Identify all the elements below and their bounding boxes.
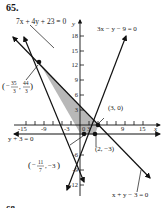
origin-label: 0: [82, 125, 85, 132]
label-7x-4y-23: 7x + 4y + 23 = 0: [16, 17, 66, 26]
leader-p4: [70, 136, 83, 145]
svg-text:−: −: [6, 82, 10, 90]
svg-text:-9: -9: [73, 166, 78, 173]
svg-text:35: 35: [11, 80, 17, 86]
svg-text:6: 6: [75, 91, 79, 98]
y-axis-label: y: [71, 20, 76, 28]
label-point-3-0: (3, 0): [108, 104, 124, 112]
svg-text:,: ,: [45, 162, 47, 170]
svg-text:−3: −3: [48, 162, 56, 170]
label-point-neg11-7-neg3: ( − 11 7 , −3 ): [28, 159, 60, 173]
svg-text:12: 12: [72, 61, 79, 68]
svg-text:44: 44: [23, 80, 29, 86]
svg-text:-12: -12: [69, 181, 78, 188]
point-35-3-44-3: [37, 60, 42, 65]
leader-p1: [26, 65, 38, 80]
point-neg11-7-neg3: [82, 132, 87, 137]
leader-7x: [30, 25, 54, 48]
svg-text:(: (: [2, 81, 5, 91]
point-2-neg3: [93, 132, 98, 137]
svg-text:-9: -9: [41, 125, 46, 132]
svg-text:3: 3: [25, 88, 28, 94]
x-axis-label: x: [153, 125, 158, 133]
problem-number: 65.: [6, 2, 19, 13]
svg-text:15: 15: [72, 47, 79, 54]
svg-text:-3: -3: [64, 125, 69, 132]
svg-text:-15: -15: [18, 125, 27, 132]
svg-text:18: 18: [72, 32, 79, 39]
label-x-y-3: x + y − 3 = 0: [112, 191, 149, 199]
line-x-y-3: [13, 37, 150, 178]
svg-text:15: 15: [139, 125, 146, 132]
svg-text:7: 7: [39, 167, 42, 173]
leader-p2: [99, 118, 104, 123]
graph-figure: 65. 7x + 4y + 23 = 0 3x − y − 9 = 0 y + …: [0, 0, 166, 208]
svg-text:3: 3: [75, 106, 78, 113]
next-problem-number: 68.: [6, 204, 17, 208]
svg-text:): ): [57, 160, 60, 170]
leader-xy3: [137, 170, 141, 192]
svg-text:-6: -6: [73, 151, 79, 158]
label-point-2-neg3: (2, −3): [95, 145, 115, 153]
svg-text:9: 9: [75, 76, 78, 83]
svg-text:3: 3: [13, 88, 16, 94]
svg-text:−: −: [32, 161, 36, 169]
svg-text:,: ,: [19, 83, 21, 91]
svg-text:11: 11: [38, 159, 44, 165]
point-3-0: [96, 123, 101, 128]
svg-text:3: 3: [87, 125, 90, 132]
label-y-plus-3: y + 3 = 0: [8, 135, 34, 143]
label-point-35-3-44-3: ( − 35 3 , 44 3 ): [2, 80, 33, 94]
label-3x-y-9: 3x − y − 9 = 0: [97, 25, 137, 33]
svg-text:): ): [30, 81, 33, 91]
svg-text:(: (: [28, 160, 31, 170]
svg-text:9: 9: [121, 125, 124, 132]
